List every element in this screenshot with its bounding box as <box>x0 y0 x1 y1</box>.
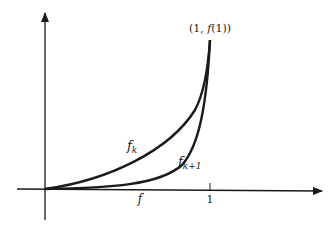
endpoint-label: (1, f(1)) <box>189 22 231 35</box>
x-tick-label-f: f <box>137 192 145 206</box>
x-tick-label-1: 1 <box>207 193 214 206</box>
curve-label-f-k: fk <box>126 138 137 155</box>
diagram-canvas: (1, f(1)) fk fk+1 f 1 <box>0 0 335 228</box>
